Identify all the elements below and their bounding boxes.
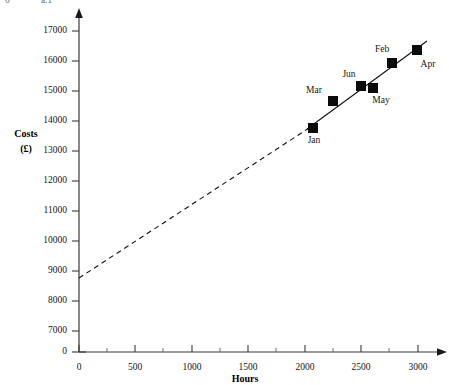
data-point-marker-jan[interactable] bbox=[308, 123, 318, 133]
data-point-label-may: May bbox=[367, 96, 395, 106]
x-tick-label-0: 0 bbox=[59, 363, 99, 373]
y-tick-label-15000: 15000 bbox=[23, 86, 67, 96]
trendline-dashed-segment bbox=[79, 128, 309, 278]
y-tick-label-12000: 12000 bbox=[23, 176, 67, 186]
y-tick-label-7000: 7000 bbox=[23, 326, 67, 336]
y-tick-label-14000: 14000 bbox=[23, 116, 67, 126]
data-point-marker-may[interactable] bbox=[368, 83, 378, 93]
x-tick-label-2000: 2000 bbox=[285, 363, 325, 373]
data-point-label-jan: Jan bbox=[301, 136, 327, 146]
trendline-solid-segment bbox=[307, 41, 427, 129]
data-point-label-apr: Apr bbox=[415, 60, 441, 70]
data-point-label-jun: Jun bbox=[336, 70, 362, 80]
y-tick-label-8000: 8000 bbox=[23, 296, 67, 306]
data-point-marker-feb[interactable] bbox=[387, 58, 397, 68]
data-point-label-mar: Mar bbox=[300, 86, 328, 96]
y-axis-title-line1: Costs bbox=[4, 129, 48, 139]
x-tick-label-1500: 1500 bbox=[228, 363, 268, 373]
x-axis-major-ticks bbox=[79, 345, 418, 352]
data-point-marker-mar[interactable] bbox=[328, 96, 338, 106]
y-tick-label-17000: 17000 bbox=[23, 26, 67, 36]
y-tick-label-10000: 10000 bbox=[23, 236, 67, 246]
y-tick-label-9000: 9000 bbox=[23, 266, 67, 276]
y-tick-label-11000: 11000 bbox=[23, 206, 67, 216]
y-axis-title-line2: (£) bbox=[4, 144, 48, 154]
x-tick-label-2500: 2500 bbox=[341, 363, 381, 373]
y-tick-label-0: 0 bbox=[23, 347, 67, 357]
data-point-marker-jun[interactable] bbox=[356, 81, 366, 91]
y-axis bbox=[75, 8, 83, 352]
x-tick-label-1000: 1000 bbox=[172, 363, 212, 373]
data-point-label-feb: Feb bbox=[369, 45, 395, 55]
x-axis-title: Hours bbox=[210, 374, 280, 384]
data-point-marker-apr[interactable] bbox=[412, 45, 422, 55]
chart-container: 0 a.1 bbox=[0, 0, 449, 385]
x-tick-label-3000: 3000 bbox=[398, 363, 438, 373]
scatter-plot-svg bbox=[0, 0, 449, 385]
x-axis bbox=[79, 348, 447, 355]
x-tick-label-500: 500 bbox=[115, 363, 155, 373]
y-tick-label-16000: 16000 bbox=[23, 56, 67, 66]
